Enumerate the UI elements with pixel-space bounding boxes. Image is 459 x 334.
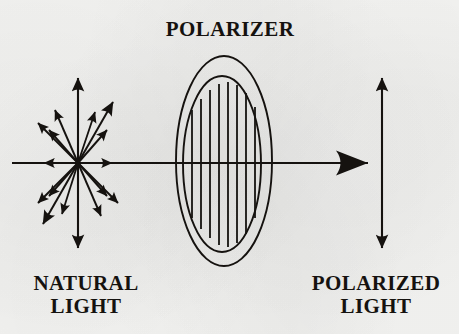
label-natural-light: NATURAL LIGHT — [6, 272, 166, 317]
label-polarizer: POLARIZER — [120, 18, 340, 41]
vibration-arrow-135 — [38, 123, 78, 163]
polarization-diagram-figure: POLARIZER NATURAL LIGHT POLARIZED LIGHT — [0, 0, 459, 334]
polarizer-outer-ellipse — [176, 56, 272, 266]
vibration-arrow-300 — [78, 163, 101, 216]
label-polarized-light: POLARIZED LIGHT — [296, 272, 456, 317]
polarizer-transmission-grating — [192, 82, 255, 247]
vibration-arrow-30 — [78, 130, 107, 163]
polarizer-filter — [176, 56, 272, 266]
vibration-arrow-315 — [78, 163, 118, 203]
vibration-arrow-60 — [78, 102, 113, 163]
natural-light-starburst — [38, 78, 118, 248]
vibration-arrow-120 — [55, 110, 78, 163]
